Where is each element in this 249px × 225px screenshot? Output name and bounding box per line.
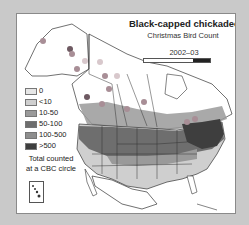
scale-bar: [143, 58, 211, 63]
legend-label: 0: [39, 86, 43, 96]
caribbean: [197, 204, 217, 210]
legend-swatch: [25, 132, 37, 139]
legend-item: 100-500: [25, 130, 67, 140]
legend-note-line: at a CBC circle: [21, 164, 81, 174]
season-label: 2002–03: [143, 48, 225, 57]
legend-swatch: [25, 110, 37, 117]
hawaii-inset: [29, 181, 44, 203]
legend-label: 50-100: [39, 119, 62, 129]
hawaii-islands-icon: [30, 182, 43, 202]
legend-label: 100-500: [39, 130, 67, 140]
legend: 0 <10 10-50 50-100 100-500 >500: [25, 86, 67, 152]
map-title: Black-capped chickadee: [129, 18, 236, 29]
legend-swatch: [25, 143, 37, 150]
legend-swatch: [25, 99, 37, 106]
scale-bar-dark-segment: [193, 59, 210, 62]
map-frame: Black-capped chickadee Christmas Bird Co…: [16, 13, 236, 214]
florida: [187, 176, 197, 194]
legend-item: >500: [25, 141, 67, 151]
legend-note-line: Total counted: [21, 154, 81, 164]
legend-note: Total counted at a CBC circle: [21, 154, 81, 174]
legend-item: 50-100: [25, 119, 67, 129]
legend-label: >500: [39, 141, 56, 151]
legend-label: 10-50: [39, 108, 58, 118]
map-subtitle: Christmas Bird Count: [129, 31, 236, 40]
legend-item: 0: [25, 86, 67, 96]
legend-swatch: [25, 121, 37, 128]
legend-label: <10: [39, 97, 52, 107]
legend-item: <10: [25, 97, 67, 107]
legend-item: 10-50: [25, 108, 67, 118]
legend-swatch: [25, 88, 37, 95]
